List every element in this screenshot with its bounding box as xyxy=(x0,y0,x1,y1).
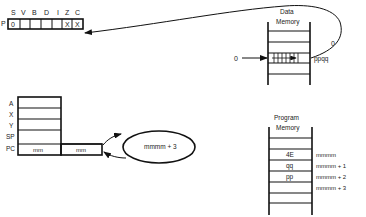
pc-low-byte: mm xyxy=(76,147,86,153)
addressed-cell xyxy=(272,53,298,63)
flag-label-d: D xyxy=(44,9,49,16)
program-memory-title-2: Memory xyxy=(276,124,300,132)
flag-label-z: Z xyxy=(65,9,70,16)
ellipse-to-pc-arrow xyxy=(104,152,126,158)
flag-label-b: B xyxy=(32,9,37,16)
data-memory-title-2: Memory xyxy=(276,18,300,26)
program-memory: Program Memory 4E qq pp mmmm mmmm + 1 mm… xyxy=(269,114,347,215)
flag-label-v: V xyxy=(21,9,26,16)
data-memory-title-1: Data xyxy=(280,8,294,15)
flag-cell-c: X xyxy=(75,21,80,28)
status-register: S V B D I Z C P 0 X X xyxy=(1,9,83,29)
pc-to-ellipse-arrow xyxy=(103,134,121,145)
flag-cell-s: 0 xyxy=(11,21,15,28)
program-memory-title-1: Program xyxy=(274,114,299,122)
program-cell-0: 4E xyxy=(286,151,295,158)
pc-high-byte: mm xyxy=(33,147,43,153)
data-memory: Data Memory ppqq xyxy=(268,8,329,85)
program-address-1: mmmm + 1 xyxy=(316,163,347,169)
program-cell-1: qq xyxy=(286,162,294,170)
flag-label-i: I xyxy=(57,9,59,16)
p-register-label: P xyxy=(1,20,6,27)
flag-label-s: S xyxy=(11,9,16,16)
program-cell-2: pp xyxy=(286,173,294,181)
program-address-3: mmmm + 3 xyxy=(316,185,347,191)
program-address-0: mmmm xyxy=(316,152,336,158)
register-label-pc: PC xyxy=(6,145,15,152)
program-address-2: mmmm + 2 xyxy=(316,174,347,180)
flag-cell-z: X xyxy=(65,21,70,28)
register-label-a: A xyxy=(9,100,14,107)
feedback-arrow xyxy=(85,6,341,58)
increment-label: mmmm + 3 xyxy=(144,143,177,150)
diagram-canvas: S V B D I Z C P 0 X X 0 Data Memory xyxy=(0,0,366,217)
input-zero-label: 0 xyxy=(234,55,238,62)
register-label-y: Y xyxy=(9,122,14,129)
flag-label-c: C xyxy=(75,9,80,16)
register-label-sp: SP xyxy=(6,133,15,140)
feedback-label: 0 xyxy=(331,40,335,47)
cpu-registers: A X Y SP PC mm mm xyxy=(6,97,102,155)
data-address-label: ppqq xyxy=(314,55,329,63)
register-label-x: X xyxy=(9,111,14,118)
